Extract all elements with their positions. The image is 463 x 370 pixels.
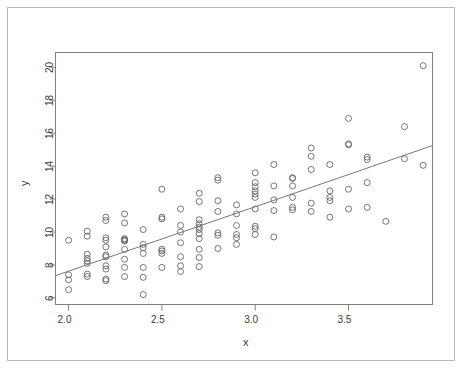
scatter-plot-figure: 2.02.53.03.5 68101214161820 y x xyxy=(0,0,463,370)
data-point xyxy=(327,214,333,220)
data-point xyxy=(252,232,258,238)
x-axis-label: x xyxy=(243,336,249,348)
data-point xyxy=(234,202,240,208)
data-point xyxy=(122,256,128,262)
data-point xyxy=(308,153,314,159)
data-point xyxy=(290,194,296,200)
data-point xyxy=(346,186,352,192)
data-point xyxy=(196,255,202,261)
y-tick-label: 20 xyxy=(44,62,55,73)
y-tick-label: 16 xyxy=(44,128,55,139)
data-point xyxy=(159,186,165,192)
data-point xyxy=(178,254,184,260)
data-point xyxy=(178,222,184,228)
data-point xyxy=(196,190,202,196)
data-point xyxy=(308,166,314,172)
data-point xyxy=(308,145,314,151)
y-tick-label: 8 xyxy=(44,262,55,268)
data-point xyxy=(271,183,277,189)
data-point xyxy=(140,274,146,280)
y-tick-label: 10 xyxy=(44,227,55,238)
data-point xyxy=(252,170,258,176)
data-point xyxy=(308,208,314,214)
y-tick-label: 12 xyxy=(44,194,55,205)
data-point xyxy=(122,264,128,270)
x-tick-label: 2.0 xyxy=(58,314,72,325)
data-point xyxy=(140,227,146,233)
data-point xyxy=(178,240,184,246)
y-axis-label: y xyxy=(18,181,30,187)
data-point xyxy=(290,183,296,189)
y-tick-label: 18 xyxy=(44,95,55,106)
y-tick-label: 6 xyxy=(44,295,55,301)
x-tick-label: 2.5 xyxy=(151,314,165,325)
x-tick-label: 3.5 xyxy=(338,314,352,325)
data-point xyxy=(215,198,221,204)
data-point xyxy=(402,156,408,162)
data-point xyxy=(271,208,277,214)
data-point xyxy=(140,292,146,298)
data-point xyxy=(346,115,352,121)
data-point xyxy=(327,162,333,168)
data-point xyxy=(196,264,202,270)
data-point xyxy=(327,188,333,194)
data-point xyxy=(140,250,146,256)
data-point xyxy=(178,206,184,212)
data-point xyxy=(122,274,128,280)
data-point xyxy=(346,206,352,212)
data-point xyxy=(308,200,314,206)
data-points xyxy=(66,63,427,298)
data-point xyxy=(271,234,277,240)
regression-line xyxy=(56,146,433,276)
x-axis-ticks xyxy=(69,305,349,311)
data-point xyxy=(402,124,408,130)
data-point xyxy=(122,220,128,226)
data-point xyxy=(66,287,72,293)
data-point xyxy=(103,244,109,250)
data-point xyxy=(364,180,370,186)
data-point xyxy=(66,237,72,243)
data-point xyxy=(122,211,128,217)
data-point xyxy=(234,222,240,228)
data-point xyxy=(178,269,184,275)
data-point xyxy=(420,63,426,69)
data-point xyxy=(420,162,426,168)
axis-box xyxy=(56,53,433,305)
data-point xyxy=(215,246,221,252)
data-point xyxy=(383,218,389,224)
data-point xyxy=(271,162,277,168)
data-point xyxy=(159,264,165,270)
data-point xyxy=(215,208,221,214)
x-tick-label: 3.0 xyxy=(244,314,258,325)
data-point xyxy=(140,264,146,270)
data-point xyxy=(196,246,202,252)
y-tick-label: 14 xyxy=(44,161,55,172)
regression-line-segment xyxy=(56,146,433,276)
data-point xyxy=(196,199,202,205)
data-point xyxy=(178,263,184,269)
data-point xyxy=(364,204,370,210)
data-point xyxy=(234,241,240,247)
